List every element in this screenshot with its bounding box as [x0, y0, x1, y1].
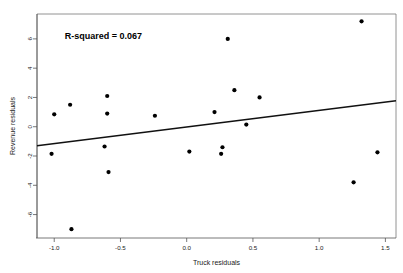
- data-point: [106, 170, 110, 174]
- x-tick-label: -1.0: [49, 244, 60, 251]
- x-axis-title: Truck residuals: [193, 259, 241, 266]
- y-tick-label: -6: [27, 211, 34, 217]
- y-tick-label: -2: [27, 153, 34, 159]
- data-point: [244, 122, 248, 126]
- y-tick-label: -4: [27, 182, 34, 188]
- data-point: [102, 144, 106, 148]
- data-point: [69, 227, 73, 231]
- data-point: [257, 95, 261, 99]
- scatter-plot-figure: -1.0-0.50.00.51.01.56420-2-4-6Truck resi…: [0, 0, 403, 273]
- x-tick-label: 1.5: [381, 244, 390, 251]
- regression-line: [37, 101, 396, 146]
- y-tick-label: 6: [27, 37, 34, 41]
- data-point: [68, 103, 72, 107]
- data-point: [153, 114, 157, 118]
- data-point: [219, 152, 223, 156]
- data-point: [105, 111, 109, 115]
- data-point: [232, 88, 236, 92]
- data-point: [212, 110, 216, 114]
- x-tick-label: -0.5: [115, 244, 126, 251]
- y-tick-label: 0: [27, 124, 34, 128]
- data-point: [352, 180, 356, 184]
- data-point: [220, 145, 224, 149]
- r-squared-annotation: R-squared = 0.067: [65, 31, 142, 41]
- y-tick-label: 4: [27, 66, 34, 70]
- x-tick-label: 0.5: [249, 244, 258, 251]
- y-tick-label: 2: [27, 95, 34, 99]
- data-point: [105, 94, 109, 98]
- data-point: [52, 112, 56, 116]
- y-axis-title: Revenue residuals: [9, 97, 16, 155]
- data-point: [49, 152, 53, 156]
- x-tick-label: 0.0: [182, 244, 191, 251]
- data-point: [359, 19, 363, 23]
- data-point: [375, 150, 379, 154]
- data-point: [226, 37, 230, 41]
- x-tick-label: 1.0: [315, 244, 324, 251]
- plot-frame: [37, 14, 396, 238]
- data-point: [187, 150, 191, 154]
- plot-canvas: -1.0-0.50.00.51.01.56420-2-4-6Truck resi…: [0, 0, 403, 273]
